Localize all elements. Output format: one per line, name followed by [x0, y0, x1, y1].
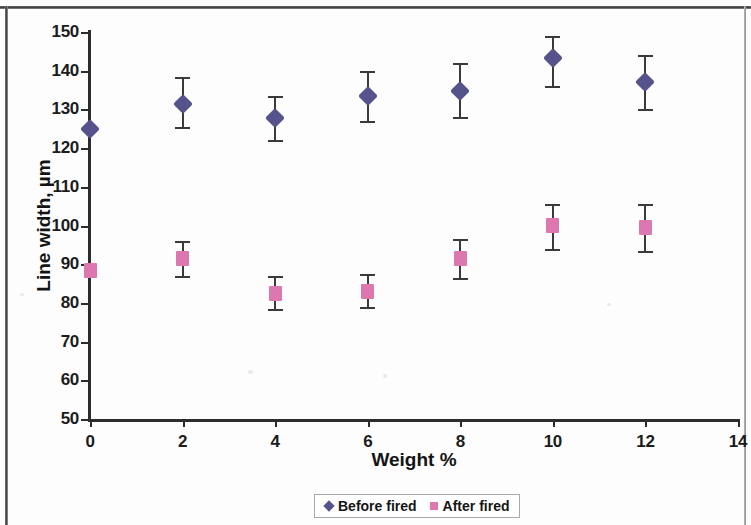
- error-bar-cap: [360, 71, 375, 73]
- legend-label: After fired: [443, 498, 510, 514]
- y-tick-mark: [81, 380, 90, 382]
- after-fired-marker: [639, 220, 652, 235]
- x-tick-mark: [368, 419, 370, 427]
- x-tick-mark: [645, 419, 647, 427]
- error-bar-cap: [360, 121, 375, 123]
- y-tick-mark: [81, 303, 90, 305]
- before-fired-marker: [636, 72, 656, 92]
- y-tick-mark: [81, 32, 90, 34]
- y-tick-label: 90: [61, 254, 79, 274]
- error-bar-cap: [268, 309, 283, 311]
- before-fired-marker: [450, 81, 470, 101]
- legend-item-after-fired: After fired: [430, 498, 510, 514]
- after-fired-marker: [84, 263, 97, 278]
- x-tick-mark: [460, 419, 462, 427]
- error-bar-cap: [453, 239, 468, 241]
- scan-speckle: [20, 293, 24, 296]
- before-fired-marker: [358, 86, 378, 106]
- y-tick-mark: [81, 187, 90, 189]
- y-tick-mark: [81, 148, 90, 150]
- legend-label: Before fired: [338, 498, 417, 514]
- y-tick-label: 70: [61, 332, 79, 352]
- error-bar-cap: [638, 55, 653, 57]
- y-tick-label: 60: [61, 370, 79, 390]
- error-bar-cap: [268, 276, 283, 278]
- y-tick-mark: [81, 342, 90, 344]
- after-fired-marker: [361, 284, 374, 299]
- plot-area: 5060708090100110120130140150 02468101214: [90, 32, 738, 419]
- error-bar-cap: [453, 278, 468, 280]
- error-bar-cap: [453, 117, 468, 119]
- error-bar-cap: [545, 204, 560, 206]
- before-fired-marker: [80, 119, 100, 139]
- after-fired-marker: [546, 218, 559, 233]
- error-bar-cap: [360, 307, 375, 309]
- error-bar-cap: [268, 140, 283, 142]
- error-bar-cap: [638, 109, 653, 111]
- error-bar-cap: [175, 241, 190, 243]
- before-fired-marker: [543, 48, 563, 68]
- x-tick-mark: [183, 419, 185, 427]
- diamond-marker-icon: [323, 500, 334, 511]
- after-fired-marker: [269, 286, 282, 301]
- error-bar-cap: [545, 36, 560, 38]
- error-bar-cap: [545, 86, 560, 88]
- y-tick-label: 50: [61, 409, 79, 429]
- before-fired-marker: [265, 108, 285, 128]
- x-axis-title: Weight %: [90, 449, 738, 471]
- y-tick-mark: [81, 109, 90, 111]
- error-bar-cap: [175, 127, 190, 129]
- after-fired-marker: [176, 251, 189, 266]
- chart-legend: Before firedAfter fired: [314, 494, 520, 518]
- before-fired-marker: [173, 94, 193, 114]
- chart-figure: 5060708090100110120130140150 02468101214…: [0, 0, 751, 525]
- error-bar-cap: [638, 251, 653, 253]
- error-bar-cap: [175, 77, 190, 79]
- x-tick-mark: [90, 419, 92, 427]
- after-fired-marker: [454, 251, 467, 266]
- error-bar-cap: [175, 276, 190, 278]
- page-frame-top-rule: [0, 6, 751, 9]
- y-axis-title: Line width, µm: [28, 32, 60, 419]
- square-marker-icon: [430, 502, 438, 510]
- y-tick-mark: [81, 226, 90, 228]
- legend-item-before-fired: Before fired: [325, 498, 417, 514]
- y-tick-mark: [81, 71, 90, 73]
- x-tick-mark: [275, 419, 277, 427]
- x-tick-mark: [738, 419, 740, 427]
- y-tick-mark: [81, 419, 90, 421]
- error-bar-cap: [545, 249, 560, 251]
- error-bar-cap: [268, 96, 283, 98]
- y-tick-label: 80: [61, 293, 79, 313]
- error-bar-cap: [453, 63, 468, 65]
- x-axis-line: [88, 419, 739, 422]
- error-bar-cap: [638, 204, 653, 206]
- error-bar-cap: [360, 274, 375, 276]
- x-tick-mark: [553, 419, 555, 427]
- page-frame-left-rule: [5, 6, 8, 525]
